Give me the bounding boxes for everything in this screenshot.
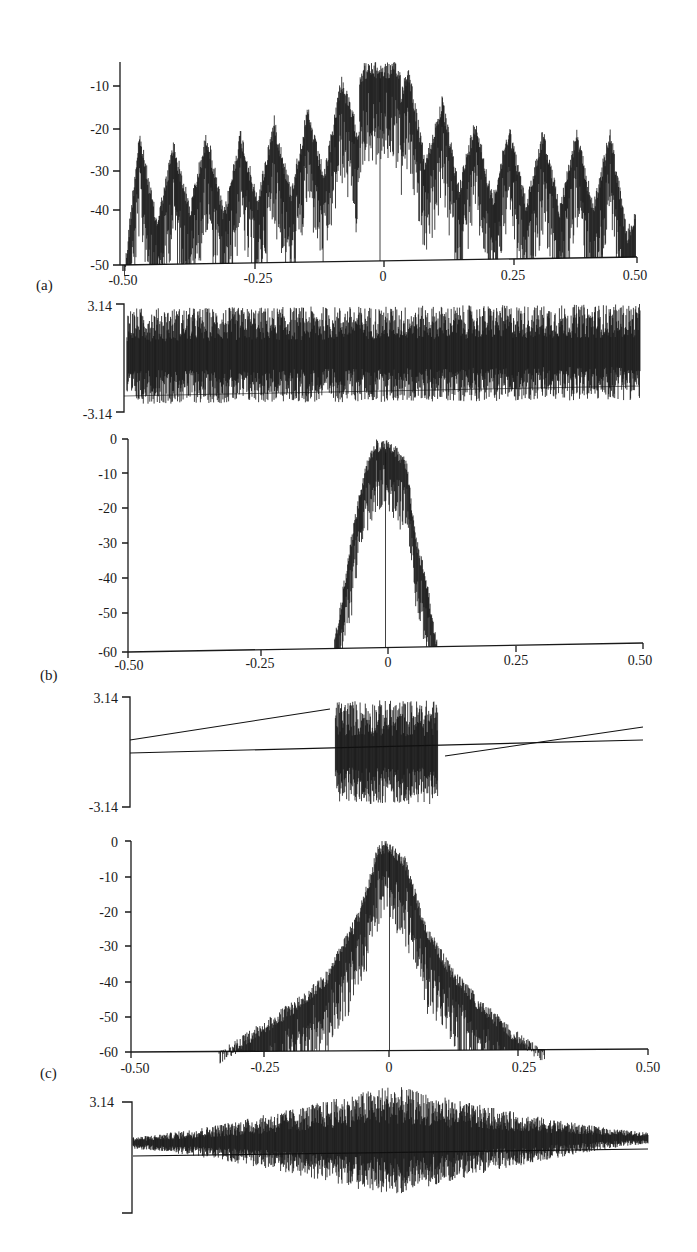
x-tick-label: -0.25 (245, 656, 274, 671)
y-tick-label: -30 (99, 939, 118, 954)
panel-a-magnitude: -10 -20 -30 -40 -50 -0.50 -0.25 0 0.25 0… (36, 62, 647, 294)
x-tick-label: 0.25 (504, 653, 529, 668)
magnitude-trace (219, 841, 545, 1063)
y-tick-label: -10 (90, 79, 109, 94)
y-tick-label: -40 (98, 571, 117, 586)
y-axis (122, 697, 130, 807)
y-tick-label: -50 (90, 258, 109, 273)
y-tick-label: -40 (99, 975, 118, 990)
magnitude-trace (125, 62, 636, 276)
phase-trace (133, 1087, 648, 1193)
x-ticks: -0.50 -0.25 0 0.25 0.50 (120, 1049, 660, 1076)
x-tick-label: 0 (385, 655, 392, 670)
y-tick-label: -3.14 (83, 407, 112, 422)
x-tick-label: 0 (386, 1060, 393, 1075)
y-tick-label: -20 (98, 501, 117, 516)
y-tick-label: 3.14 (94, 691, 119, 706)
x-tick-label: 0 (380, 269, 387, 284)
panel-b-phase: 3.14 -3.14 (89, 691, 643, 815)
y-tick-label: -20 (90, 122, 109, 137)
y-ticks: 0 -10 -20 -30 -40 -50 -60 (99, 835, 131, 1060)
phase-trace (127, 304, 640, 404)
y-tick-label: -10 (99, 870, 118, 885)
x-tick-label: -0.50 (120, 1061, 149, 1076)
panel-c-magnitude: 0 -10 -20 -30 -40 -50 -60 -0.50 -0.25 0 … (40, 835, 660, 1082)
x-tick-label: -0.50 (108, 273, 137, 288)
figure: -10 -20 -30 -40 -50 -0.50 -0.25 0 0.25 0… (0, 0, 697, 1252)
y-tick-label: -20 (99, 905, 118, 920)
x-tick-label: -0.25 (243, 271, 272, 286)
y-tick-label: 0 (110, 432, 117, 447)
x-tick-label: 0.50 (628, 653, 653, 668)
y-tick-label: 3.14 (90, 1095, 115, 1110)
y-tick-label: -30 (90, 164, 109, 179)
y-ticks: 0 -10 -20 -30 -40 -50 -60 (98, 432, 128, 660)
y-axis (116, 304, 124, 412)
phase-trace (335, 700, 440, 804)
panel-label: (a) (36, 277, 53, 294)
panel-c-phase: 3.14 (90, 1087, 649, 1213)
y-tick-label: -30 (98, 536, 117, 551)
panel-b-magnitude: 0 -10 -20 -30 -40 -50 -60 -0.50 -0.25 0 … (40, 432, 652, 684)
panel-label: (c) (40, 1065, 57, 1082)
y-tick-label: -40 (90, 203, 109, 218)
panel-a-phase: 3.14 -3.14 (83, 299, 640, 422)
panel-label: (b) (40, 667, 58, 684)
y-axis (122, 1102, 132, 1213)
y-tick-label: -50 (99, 1010, 118, 1025)
magnitude-trace (334, 440, 437, 650)
y-tick-label: 3.14 (88, 299, 113, 314)
y-tick-label: 0 (111, 835, 118, 850)
x-tick-label: -0.25 (250, 1060, 279, 1075)
x-tick-label: 0.25 (501, 268, 526, 283)
x-tick-label: 0.25 (512, 1060, 537, 1075)
linear-phase-right (445, 727, 643, 756)
linear-phase-left (130, 709, 330, 740)
x-tick-label: 0.50 (636, 1060, 661, 1075)
y-tick-label: -50 (98, 606, 117, 621)
y-tick-label: -60 (99, 1045, 118, 1060)
y-tick-label: -3.14 (89, 800, 118, 815)
x-tick-label: 0.50 (623, 268, 648, 283)
y-ticks: -10 -20 -30 -40 -50 (90, 79, 120, 273)
y-tick-label: -10 (98, 467, 117, 482)
x-tick-label: -0.50 (114, 658, 143, 673)
